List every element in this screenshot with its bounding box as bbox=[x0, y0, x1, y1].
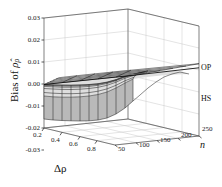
floor-grid bbox=[44, 119, 199, 145]
x-tick-label: 0.2 bbox=[33, 132, 42, 139]
z-tick-label: 150 bbox=[160, 137, 171, 144]
x-tick-label: 0.6 bbox=[69, 141, 78, 148]
y-tick-label: -0.03 bbox=[13, 147, 40, 154]
bias-surface-chart: 0.03 0.02 0.01 0.00 -0.01 -0.02 -0.03 0.… bbox=[0, 0, 222, 187]
x-tick-label: 0.8 bbox=[87, 146, 96, 153]
y-axis-title-subscript: ρ bbox=[12, 59, 21, 63]
z-tick-label: 50 bbox=[118, 146, 125, 153]
y-axis-title-prefix: Bias of bbox=[8, 68, 20, 102]
chart-canvas bbox=[0, 0, 222, 187]
x-tick-label: 0.4 bbox=[51, 137, 60, 144]
z-tick-label: 200 bbox=[181, 132, 192, 139]
z-tick-label: 100 bbox=[139, 142, 150, 149]
y-axis-title-symbol: ρ̂ bbox=[8, 62, 20, 67]
series-label-hs: HS bbox=[201, 95, 211, 103]
x-axis-title: Δρ bbox=[54, 163, 67, 174]
y-tick-label: 0.03 bbox=[16, 15, 40, 22]
z-axis-title: n bbox=[200, 140, 205, 150]
series-label-op: OP bbox=[201, 64, 211, 72]
z-tick-label: 250 bbox=[202, 126, 213, 133]
y-axis-title: Bias of ρ̂ρ bbox=[9, 34, 22, 126]
